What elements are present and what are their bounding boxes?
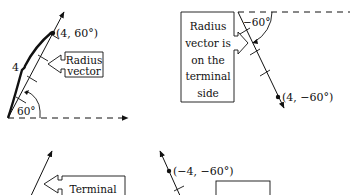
panel-top-left: (4, 60°) 4 60° Radius vector [8, 12, 128, 118]
callout-line: Radius [190, 20, 227, 32]
point-marker [276, 95, 280, 99]
panel-bottom-right: (−4, −60°) [160, 151, 270, 195]
callout-radius-vector: Radius vector [48, 52, 103, 77]
callout-line: side [197, 87, 219, 99]
angle-label: −60° [243, 16, 270, 28]
angle-label: 60° [17, 105, 36, 117]
callout-radius-vector-terminal-side: Radius vector is on the terminal side [181, 12, 248, 102]
point-label: (4, −60°) [282, 91, 333, 104]
polar-coordinates-diagram: (4, 60°) 4 60° Radius vector (4, −60°) −… [0, 0, 354, 195]
radius-label: 4 [12, 61, 19, 74]
callout-line: on the [191, 54, 225, 66]
callout-terminal: Terminal [44, 175, 125, 195]
callout-line: vector is [184, 37, 231, 49]
panel-top-right: (4, −60°) −60° Radius vector is on the t… [181, 12, 350, 108]
point-label: (−4, −60°) [173, 165, 234, 178]
point-marker [51, 31, 55, 35]
callout-line: terminal [185, 70, 231, 82]
panel-bottom-left: Terminal [30, 151, 125, 195]
terminal-side-ray [30, 151, 52, 195]
callout-line: vector [66, 65, 102, 77]
point-label: (4, 60°) [56, 27, 98, 40]
callout-line: Terminal [69, 183, 117, 195]
callout-box [216, 181, 270, 195]
point-marker [167, 169, 171, 173]
